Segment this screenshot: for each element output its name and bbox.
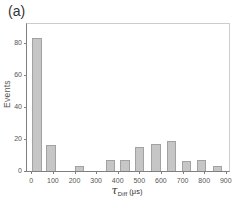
histogram-bar <box>151 144 161 171</box>
histogram-bar <box>32 38 42 171</box>
x-tick-mark <box>139 171 140 174</box>
y-tick-mark <box>24 171 27 172</box>
y-tick-mark <box>24 139 27 140</box>
x-axis-unit: (μs) <box>129 187 142 196</box>
y-tick-label: 60 <box>6 71 22 78</box>
x-tick-mark <box>31 171 32 174</box>
x-tick-mark <box>161 171 162 174</box>
y-tick-label: 0 <box>6 167 22 174</box>
histogram-bar <box>213 166 223 171</box>
y-tick-label: 20 <box>6 135 22 142</box>
y-tick-mark <box>24 43 27 44</box>
panel-label: (a) <box>8 3 25 19</box>
y-tick-mark <box>24 107 27 108</box>
x-tick-label: 900 <box>213 177 239 184</box>
x-tick-mark <box>226 171 227 174</box>
y-tick-label: 40 <box>6 103 22 110</box>
y-tick-label: 80 <box>6 39 22 46</box>
x-tick-mark <box>75 171 76 174</box>
x-tick-mark <box>204 171 205 174</box>
histogram-bar <box>167 141 177 171</box>
x-axis-title: τDiff(μs) <box>26 184 228 197</box>
x-tick-mark <box>96 171 97 174</box>
plot-area: 0100200300400500600700800900020406080 <box>26 23 230 172</box>
y-tick-mark <box>24 75 27 76</box>
histogram-bar <box>120 160 130 171</box>
histogram-bar <box>46 145 56 171</box>
histogram-bar <box>197 160 207 171</box>
histogram-bar <box>182 161 192 171</box>
histogram-bar <box>75 166 85 171</box>
tau-subscript: Diff <box>118 191 128 197</box>
histogram-bar <box>106 160 116 171</box>
x-tick-mark <box>53 171 54 174</box>
x-tick-mark <box>183 171 184 174</box>
histogram-figure: (a) Events 01002003004005006007008009000… <box>0 0 241 209</box>
x-tick-mark <box>118 171 119 174</box>
histogram-bar <box>135 147 145 171</box>
